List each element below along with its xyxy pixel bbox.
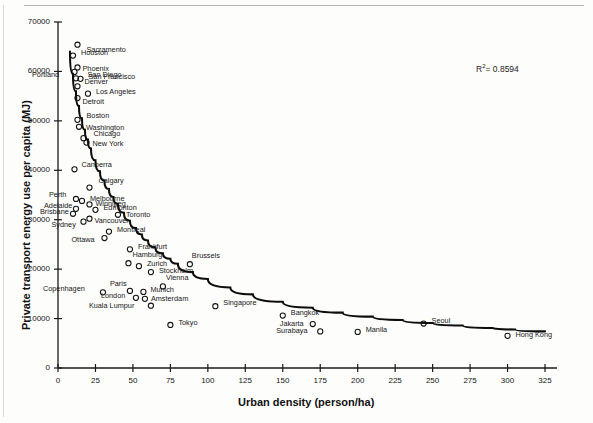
x-axis-title: Urban density (person/ha) bbox=[238, 396, 374, 408]
data-point-marker[interactable] bbox=[106, 229, 111, 234]
data-point-marker[interactable] bbox=[310, 321, 315, 326]
data-point-label: Amsterdam bbox=[151, 295, 188, 303]
data-point-label: Sydney bbox=[51, 221, 75, 229]
data-point-marker[interactable] bbox=[72, 69, 77, 74]
x-axis-tick-label: 50 bbox=[113, 376, 153, 385]
data-point-label: Canberra bbox=[81, 161, 111, 169]
data-point-marker[interactable] bbox=[148, 270, 153, 275]
data-point-marker[interactable] bbox=[318, 329, 323, 334]
data-point-label: Tokyo bbox=[178, 319, 197, 327]
data-point-marker[interactable] bbox=[75, 42, 80, 47]
data-point-label: Seoul bbox=[432, 317, 451, 325]
data-point-label: Brisbane bbox=[40, 208, 69, 216]
data-point-label: Vancouver bbox=[94, 217, 128, 225]
data-point-label: Chicago bbox=[93, 130, 120, 138]
data-point-marker[interactable] bbox=[213, 304, 218, 309]
x-axis-tick-label: 75 bbox=[150, 376, 190, 385]
data-point-marker[interactable] bbox=[505, 333, 510, 338]
data-point-marker[interactable] bbox=[136, 264, 141, 269]
data-point-label: Copenhagen bbox=[43, 285, 85, 293]
data-point-label: Portland bbox=[32, 71, 59, 79]
x-axis-tick-label: 175 bbox=[300, 376, 340, 385]
data-point-label: London bbox=[101, 292, 125, 300]
x-axis-tick-label: 225 bbox=[375, 376, 415, 385]
y-axis-tick-label: 0 bbox=[2, 363, 50, 372]
data-point-label: Boston bbox=[86, 112, 109, 120]
data-point-marker[interactable] bbox=[133, 295, 138, 300]
data-point-label: Calgary bbox=[98, 177, 123, 185]
x-axis-tick-label: 125 bbox=[225, 376, 265, 385]
data-point-marker[interactable] bbox=[70, 211, 75, 216]
x-axis-tick-label: 150 bbox=[263, 376, 303, 385]
data-point-label: Singapore bbox=[223, 299, 256, 307]
data-point-marker[interactable] bbox=[355, 329, 360, 334]
data-point-label: Denver bbox=[84, 78, 108, 86]
x-axis-tick-label: 0 bbox=[38, 376, 78, 385]
data-point-label: Hamburg bbox=[132, 251, 162, 259]
data-point-label: Perth bbox=[49, 191, 66, 199]
data-point-marker[interactable] bbox=[168, 322, 173, 327]
data-point-label: Kuala Lumpur bbox=[89, 302, 134, 310]
data-point-marker[interactable] bbox=[73, 206, 78, 211]
x-axis-tick-label: 100 bbox=[188, 376, 228, 385]
data-point-marker[interactable] bbox=[81, 219, 86, 224]
data-point-label: Ottawa bbox=[71, 236, 94, 244]
data-point-marker[interactable] bbox=[87, 216, 92, 221]
trendline-curve bbox=[70, 52, 545, 332]
data-point-marker[interactable] bbox=[102, 235, 107, 240]
y-axis-tick-label: 70000 bbox=[2, 17, 50, 26]
data-point-label: Detroit bbox=[82, 98, 104, 106]
data-point-label: Brussels bbox=[192, 252, 220, 260]
x-axis-tick-label: 200 bbox=[338, 376, 378, 385]
data-point-label: Los Angeles bbox=[96, 88, 136, 96]
data-point-marker[interactable] bbox=[141, 289, 146, 294]
x-axis-tick-label: 275 bbox=[450, 376, 490, 385]
data-point-marker[interactable] bbox=[280, 313, 285, 318]
data-point-label: Bangkok bbox=[291, 309, 319, 317]
data-point-label: Surabaya bbox=[276, 327, 307, 335]
data-point-label: Vienna bbox=[166, 274, 189, 282]
data-point-marker[interactable] bbox=[87, 185, 92, 190]
chart-figure: 0255075100125150175200225250275300325010… bbox=[0, 0, 593, 423]
data-point-marker[interactable] bbox=[70, 53, 75, 58]
data-point-marker[interactable] bbox=[76, 124, 81, 129]
data-point-label: Toronto bbox=[126, 211, 150, 219]
data-point-label: New York bbox=[92, 140, 123, 148]
data-point-marker[interactable] bbox=[75, 117, 80, 122]
x-axis-tick-label: 325 bbox=[525, 376, 565, 385]
data-point-label: Paris bbox=[110, 280, 127, 288]
r-squared-value: = 0.8594 bbox=[485, 64, 518, 74]
data-point-marker[interactable] bbox=[73, 196, 78, 201]
data-point-marker[interactable] bbox=[127, 288, 132, 293]
data-point-marker[interactable] bbox=[126, 261, 131, 266]
data-point-marker[interactable] bbox=[72, 167, 77, 172]
x-axis-tick-label: 25 bbox=[75, 376, 115, 385]
data-point-marker[interactable] bbox=[142, 296, 147, 301]
data-point-label: Munich bbox=[150, 286, 174, 294]
data-point-label: Houston bbox=[81, 49, 108, 57]
data-point-marker[interactable] bbox=[75, 84, 80, 89]
y-axis-title: Private transport energy use per capita … bbox=[20, 100, 32, 330]
data-point-marker[interactable] bbox=[148, 303, 153, 308]
r-squared-annotation: R2= 0.8594 bbox=[476, 63, 519, 74]
x-axis-tick-label: 300 bbox=[488, 376, 528, 385]
data-point-label: Montreal bbox=[117, 226, 145, 234]
data-point-marker[interactable] bbox=[79, 198, 84, 203]
data-point-label: Hong Kong bbox=[516, 331, 553, 339]
data-point-label: Manila bbox=[366, 326, 388, 334]
x-axis-tick-label: 250 bbox=[413, 376, 453, 385]
data-point-marker[interactable] bbox=[85, 91, 90, 96]
